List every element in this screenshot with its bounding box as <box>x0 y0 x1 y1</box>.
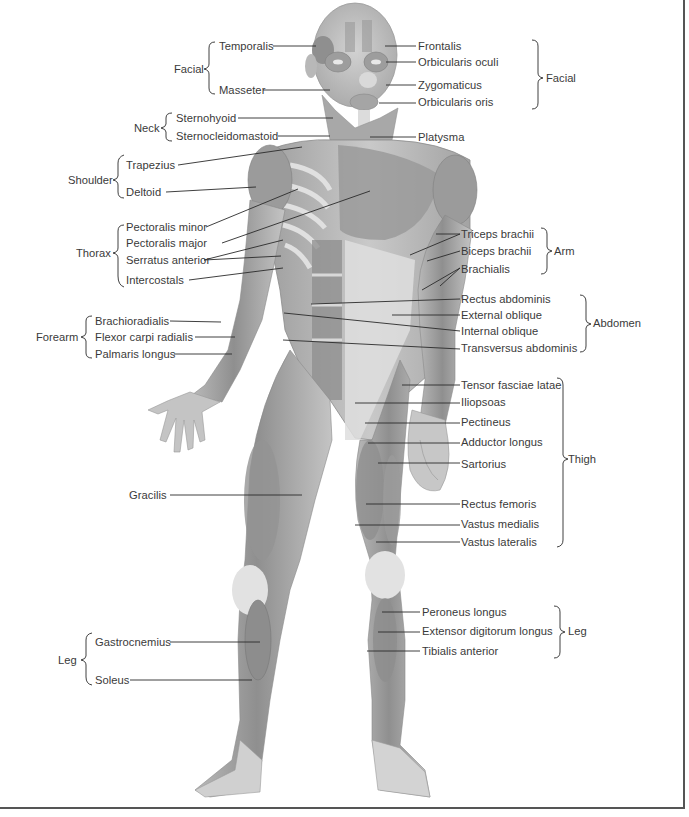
group-label-thorax: Thorax <box>76 247 111 260</box>
frame-border-right <box>683 0 685 808</box>
label-biceps-brachii: Biceps brachii <box>461 245 531 258</box>
group-label-facial-right: Facial <box>546 72 576 85</box>
group-label-neck: Neck <box>134 122 160 135</box>
label-iliopsoas: Iliopsoas <box>461 396 506 409</box>
right-deltoid <box>433 155 477 225</box>
label-tibialis-anterior: Tibialis anterior <box>422 645 498 658</box>
label-tensor-fasciae-latae: Tensor fasciae latae <box>461 379 562 392</box>
label-orbicularis-oris: Orbicularis oris <box>418 96 493 109</box>
label-rectus-femoris: Rectus femoris <box>461 498 536 511</box>
label-external-oblique: External oblique <box>461 309 542 322</box>
group-label-shoulder: Shoulder <box>68 174 113 187</box>
group-label-leg-right: Leg <box>568 625 587 638</box>
label-gracilis: Gracilis <box>129 489 167 502</box>
label-intercostals: Intercostals <box>126 274 184 287</box>
label-pectoralis-major: Pectoralis major <box>126 237 207 250</box>
group-label-arm: Arm <box>554 245 575 258</box>
label-trapezius: Trapezius <box>126 159 175 172</box>
anatomy-figure: Facial Temporalis Masseter Neck Sternohy… <box>0 0 689 817</box>
label-vastus-medialis: Vastus medialis <box>461 518 539 531</box>
label-sternocleidomastoid: Sternocleidomastoid <box>176 130 278 143</box>
head <box>305 3 397 126</box>
label-brachioradialis: Brachioradialis <box>95 315 169 328</box>
label-pectineus: Pectineus <box>461 416 511 429</box>
group-label-abdomen: Abdomen <box>593 317 641 330</box>
label-flexor-carpi-radialis: Flexor carpi radialis <box>95 331 193 344</box>
label-masseter: Masseter <box>219 84 265 97</box>
group-label-leg-left: Leg <box>58 654 77 667</box>
label-sartorius: Sartorius <box>461 458 506 471</box>
label-transversus-abdominis: Transversus abdominis <box>461 342 577 355</box>
label-palmaris-longus: Palmaris longus <box>95 348 175 361</box>
label-frontalis: Frontalis <box>418 40 461 53</box>
label-pectoralis-minor: Pectoralis minor <box>126 221 207 234</box>
label-platysma: Platysma <box>418 131 464 144</box>
group-label-thigh: Thigh <box>568 453 596 466</box>
muscle-body-illustration <box>0 0 689 817</box>
label-triceps-brachii: Triceps brachii <box>461 228 534 241</box>
label-soleus: Soleus <box>95 674 130 687</box>
group-label-forearm: Forearm <box>36 331 78 344</box>
label-sternohyoid: Sternohyoid <box>176 112 236 125</box>
label-temporalis: Temporalis <box>219 40 274 53</box>
label-zygomaticus: Zygomaticus <box>418 79 482 92</box>
label-peroneus-longus: Peroneus longus <box>422 606 507 619</box>
label-adductor-longus: Adductor longus <box>461 436 543 449</box>
left-leg <box>195 350 332 797</box>
label-extensor-digitorum-longus: Extensor digitorum longus <box>422 625 553 638</box>
label-brachialis: Brachialis <box>461 263 510 276</box>
label-deltoid: Deltoid <box>126 186 161 199</box>
group-label-facial-left: Facial <box>174 63 204 76</box>
label-orbicularis-oculi: Orbicularis oculi <box>418 56 498 69</box>
frame-border-bottom <box>0 807 685 809</box>
label-serratus-anterior: Serratus anterior <box>126 254 210 267</box>
label-rectus-abdominis: Rectus abdominis <box>461 293 551 306</box>
label-internal-oblique: Internal oblique <box>461 325 538 338</box>
label-gastrocnemius: Gastrocnemius <box>95 636 171 649</box>
label-vastus-lateralis: Vastus lateralis <box>461 536 537 549</box>
